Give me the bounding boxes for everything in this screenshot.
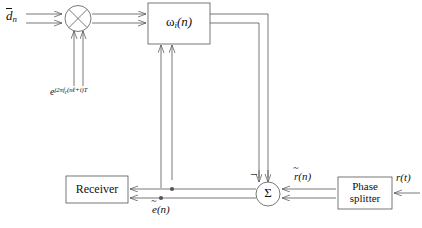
error-argument: (n): [157, 203, 170, 215]
analog-input-argument: (t): [400, 171, 410, 183]
node-dot-error-upper: [170, 187, 174, 191]
label-received-signal: r(n): [294, 171, 311, 182]
filter-block-label: ωi(n): [148, 15, 210, 31]
summer-minus-sign: −: [250, 168, 257, 181]
node-dot-error-lower: [159, 196, 163, 200]
phase-splitter-line2: splitter: [350, 192, 381, 204]
label-input-data: dn: [6, 9, 17, 24]
label-analog-input: r(t): [396, 172, 411, 183]
filter-argument: (n): [177, 14, 192, 29]
summer-symbol: Σ: [256, 186, 280, 201]
label-carrier-exponential: ej2πfc(nℓ+i)T: [50, 87, 87, 97]
phase-splitter-line1: Phase: [352, 180, 378, 192]
label-error-signal: e(n): [152, 204, 170, 215]
phase-splitter-label: Phase splitter: [338, 180, 392, 205]
received-argument: (n): [298, 170, 311, 182]
block-diagram-canvas: dn ej2πfc(nℓ+i)T ωi(n) Receiver Phase sp…: [0, 0, 422, 228]
wire-filter-out-inner: [210, 23, 259, 178]
input-data-subscript: n: [13, 14, 17, 24]
receiver-label: Receiver: [66, 183, 128, 196]
tilde-r: r: [294, 171, 298, 182]
tilde-e: e: [152, 204, 157, 215]
carrier-exponent-rest: (nℓ+i)T: [67, 86, 87, 93]
carrier-exponent-prefix: j2πf: [54, 86, 64, 93]
overbar-d: d: [6, 9, 13, 22]
